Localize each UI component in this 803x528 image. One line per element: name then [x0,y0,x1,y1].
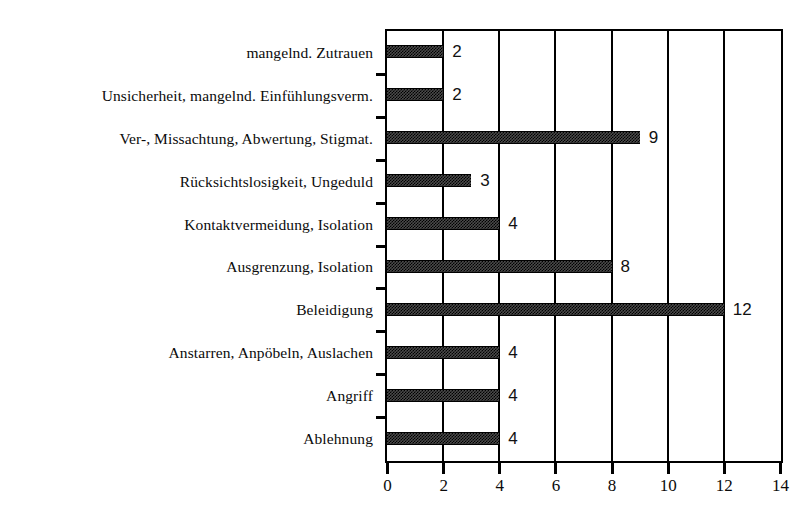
value-label: 4 [508,215,517,232]
category-label: Ablehnung [0,431,379,447]
value-axis-tick [723,463,726,474]
value-axis-tick [779,463,782,474]
value-axis: 02468101214 [385,463,783,464]
value-label: 2 [452,43,461,60]
value-label: 4 [508,430,517,447]
value-label: 9 [649,129,658,146]
value-axis-tick-label: 4 [496,477,505,494]
bar [387,88,443,101]
category-label: Unsicherheit, mangelnd. Einfühlungsverm. [0,88,379,104]
category-label: Angriff [0,388,379,404]
bar [387,303,724,316]
category-label: Anstarren, Anpöbeln, Auslachen [0,345,379,361]
value-axis-tick-label: 12 [716,477,733,494]
category-label: mangelnd. Zutrauen [0,45,379,61]
gridline [554,31,556,461]
value-label: 4 [508,344,517,361]
value-axis-tick-label: 2 [439,477,448,494]
bar [387,260,612,273]
value-label: 8 [621,258,630,275]
category-label: Ausgrenzung, Isolation [0,259,379,275]
gridline [611,31,613,461]
value-axis-tick-label: 0 [383,477,392,494]
value-axis-tick-label: 6 [552,477,561,494]
value-axis-tick-label: 14 [772,477,789,494]
category-axis-labels: mangelnd. ZutrauenUnsicherheit, mangelnd… [0,29,379,463]
value-label: 3 [480,172,489,189]
category-label: Ver-, Missachtung, Abwertung, Stigmat. [0,131,379,147]
value-axis-tick [498,463,501,474]
value-axis-tick-label: 10 [660,477,677,494]
value-label: 4 [508,387,517,404]
value-axis-tick [611,463,614,474]
value-label: 12 [733,301,752,318]
value-axis-tick [386,463,389,474]
gridline [723,31,725,461]
plot-area: 22934812444 [385,29,783,463]
bar-chart: mangelnd. ZutrauenUnsicherheit, mangelnd… [0,0,803,528]
category-label: Kontaktvermeidung, Isolation [0,217,379,233]
value-axis-tick [667,463,670,474]
value-axis-tick [554,463,557,474]
bar [387,217,499,230]
bar [387,346,499,359]
plot-inner: 22934812444 [387,31,781,461]
bar [387,45,443,58]
category-label: Rücksichtslosigkeit, Ungeduld [0,174,379,190]
bar [387,432,499,445]
category-label: Beleidigung [0,302,379,318]
gridline [667,31,669,461]
bar [387,389,499,402]
bar [387,131,640,144]
value-label: 2 [452,86,461,103]
value-axis-tick [442,463,445,474]
value-axis-tick-label: 8 [608,477,617,494]
bar [387,174,471,187]
